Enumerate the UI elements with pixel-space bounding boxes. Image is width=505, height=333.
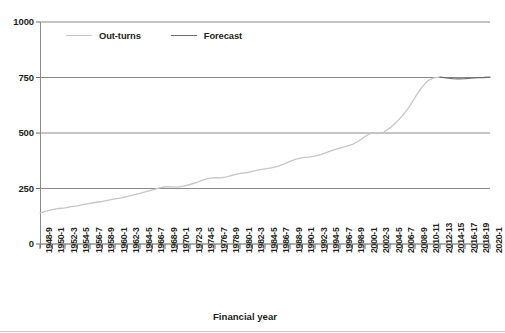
x-tick-label: 1958-9 [106,227,116,253]
series-line-out-turns [40,77,440,213]
x-tick-label: 1954-5 [81,227,91,253]
chart-plot-area [0,0,505,333]
x-tick-label: 1986-7 [281,227,291,253]
x-axis-title: Financial year [213,311,277,322]
x-tick-label: 2008-9 [419,227,429,253]
x-tick-label: 1982-3 [256,227,266,253]
x-tick-label: 1974-5 [206,227,216,253]
x-tick-label: 1960-1 [119,227,129,253]
x-tick-label: 1996-7 [344,227,354,253]
chart-legend: Out-turns Forecast [66,30,242,41]
x-tick-label: 2006-7 [406,227,416,253]
y-tick-label: 1000 [0,16,34,27]
legend-swatch-forecast [171,35,197,36]
gridlines [40,22,490,244]
x-tick-label: 1992-3 [319,227,329,253]
legend-label-forecast: Forecast [204,30,242,41]
x-tick-label: 1952-3 [69,227,79,253]
x-tick-label: 1994-5 [331,227,341,253]
x-tick-label: 2000-1 [369,227,379,253]
bottom-divider [0,331,505,332]
x-tick-label: 2018-19 [481,223,491,253]
x-tick-label: 2004-5 [394,227,404,253]
x-tick-label: 1980-1 [244,227,254,253]
x-tick-label: 2016-17 [469,223,479,253]
y-tick-label: 0 [0,238,34,249]
y-tick-label: 750 [0,72,34,83]
x-tick-label: 1998-9 [356,227,366,253]
legend-label-out-turns: Out-turns [99,30,141,41]
x-tick-label: 1978-9 [231,227,241,253]
x-tick-label: 1988-9 [294,227,304,253]
x-tick-label: 1990-1 [306,227,316,253]
x-tick-label: 2020-1 [494,227,504,253]
chart-container: 02505007501000 1948-91950-11952-31954-51… [0,0,505,333]
x-tick-label: 1976-7 [219,227,229,253]
y-tick-label: 250 [0,183,34,194]
legend-swatch-out-turns [66,35,92,36]
x-tick-label: 1950-1 [56,227,66,253]
x-tick-label: 1966-7 [156,227,166,253]
x-tick-label: 1962-3 [131,227,141,253]
x-tick-label: 2012-13 [444,223,454,253]
y-tick-marks [36,22,40,244]
x-tick-label: 1970-1 [181,227,191,253]
x-tick-label: 2014-15 [456,223,466,253]
x-tick-label: 1956-7 [94,227,104,253]
x-tick-label: 1972-3 [194,227,204,253]
x-tick-label: 1984-5 [269,227,279,253]
x-tick-label: 1948-9 [44,227,54,253]
legend-item-out-turns[interactable]: Out-turns [66,30,141,41]
y-tick-label: 500 [0,127,34,138]
x-tick-label: 1968-9 [169,227,179,253]
x-tick-label: 2002-3 [381,227,391,253]
legend-item-forecast[interactable]: Forecast [171,30,242,41]
x-tick-label: 2010-11 [431,223,441,253]
x-tick-label: 1964-5 [144,227,154,253]
